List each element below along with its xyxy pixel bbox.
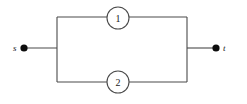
edge-1-label: 1 <box>116 13 121 24</box>
parallel-network-diagram: 1 2 s t <box>0 0 247 104</box>
edge-2-label: 2 <box>116 77 121 88</box>
sink-terminal-label: t <box>223 43 226 53</box>
source-terminal-dot <box>20 44 27 51</box>
sink-terminal-dot <box>212 44 219 51</box>
figure-canvas: 1 2 s t <box>0 0 247 104</box>
source-terminal-label: s <box>13 43 17 53</box>
